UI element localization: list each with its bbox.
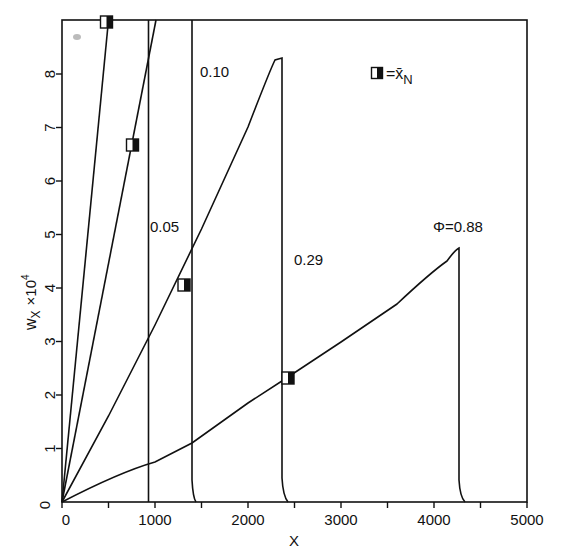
markers — [101, 16, 295, 384]
svg-text:2: 2 — [41, 391, 58, 399]
svg-text:5000: 5000 — [510, 511, 543, 528]
svg-text:1: 1 — [41, 444, 58, 452]
svg-text:0: 0 — [62, 511, 70, 528]
curve-phi-0.88 — [62, 248, 465, 502]
svg-text:6: 6 — [41, 177, 58, 185]
chart: 0 1000 2000 3000 4000 5000 X 0 1 2 3 4 5… — [0, 0, 570, 555]
x-axis-label: X — [289, 532, 299, 549]
x-tick-labels: 0 1000 2000 3000 4000 5000 — [62, 511, 544, 528]
svg-text:7: 7 — [41, 123, 58, 131]
x-ticks — [62, 502, 527, 508]
label-phi-0.88: Φ=0.88 — [433, 218, 483, 235]
curves — [62, 20, 465, 502]
svg-text:4: 4 — [41, 284, 58, 292]
svg-text:=x̄N: =x̄N — [386, 65, 413, 87]
svg-text:4000: 4000 — [417, 511, 450, 528]
label-phi-0.10: 0.10 — [200, 63, 229, 80]
marker-xn-phi-0.10 — [127, 139, 139, 151]
y-axis-label: wX×104 — [20, 274, 43, 331]
curve-phi-0.29 — [62, 58, 288, 502]
legend: =x̄N — [372, 65, 413, 87]
marker-xn-phi-0.05 — [101, 16, 113, 28]
svg-text:0: 0 — [36, 501, 53, 509]
svg-text:3: 3 — [41, 337, 58, 345]
curve-phi-0.10 — [62, 20, 156, 502]
svg-text:2000: 2000 — [231, 511, 264, 528]
svg-text:3000: 3000 — [324, 511, 357, 528]
y-tick-labels: 0 1 2 3 4 5 6 7 8 — [36, 70, 58, 509]
smudge — [73, 34, 81, 40]
legend-marker — [372, 68, 383, 79]
marker-xn-phi-0.88 — [282, 372, 294, 384]
label-phi-0.29: 0.29 — [294, 251, 323, 268]
svg-text:5: 5 — [41, 230, 58, 238]
label-phi-0.05: 0.05 — [150, 218, 179, 235]
svg-text:wX×104: wX×104 — [20, 274, 43, 331]
marker-xn-phi-0.29 — [178, 279, 190, 291]
cutoff-phi-0.10 — [192, 20, 196, 502]
curve-labels: 0.05 0.10 0.29 Φ=0.88 — [150, 63, 483, 268]
svg-text:8: 8 — [41, 70, 58, 78]
svg-text:1000: 1000 — [138, 511, 171, 528]
